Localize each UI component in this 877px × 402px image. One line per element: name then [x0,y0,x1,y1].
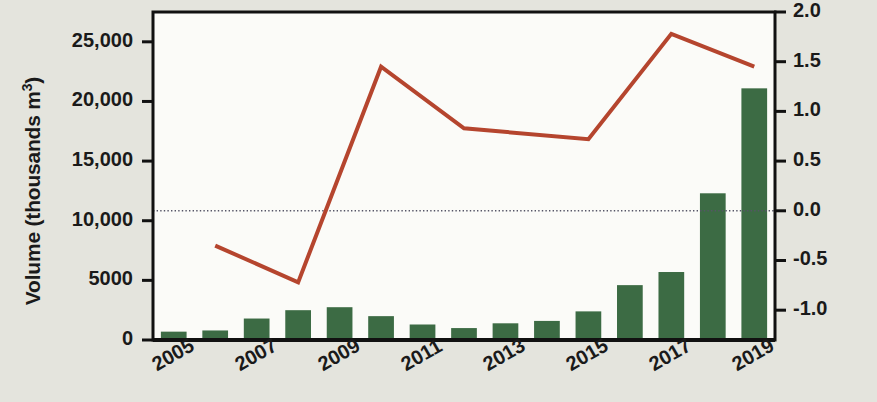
y-axis-left-tick-label: 15,000 [0,148,133,171]
bar [658,272,684,340]
y-axis-left-tick-label: 20,000 [0,88,133,111]
bar [534,321,560,340]
bar [368,316,394,340]
bar [741,88,767,340]
y-axis-left-tick-label: 5000 [0,267,133,290]
y-axis-right-tick-label: 1.0 [793,98,821,121]
chart-figure: Volume (thousands m3) Temperature ( °C) … [0,0,877,402]
y-axis-right-tick-label: 1.5 [793,49,821,72]
y-axis-left-tick-label: 25,000 [0,29,133,52]
y-axis-right-tick-label: -0.5 [793,247,827,270]
bar [285,310,311,340]
y-axis-right-tick-label: 2.0 [793,0,821,22]
y-axis-right-tick-label: -1.0 [793,297,827,320]
y-axis-right-tick-label: 0.0 [793,198,821,221]
y-axis-left-tick-label: 0 [0,327,133,350]
y-axis-right-tick-label: 0.5 [793,148,821,171]
bar [700,193,726,340]
bar [617,285,643,340]
y-axis-left-tick-label: 10,000 [0,208,133,231]
